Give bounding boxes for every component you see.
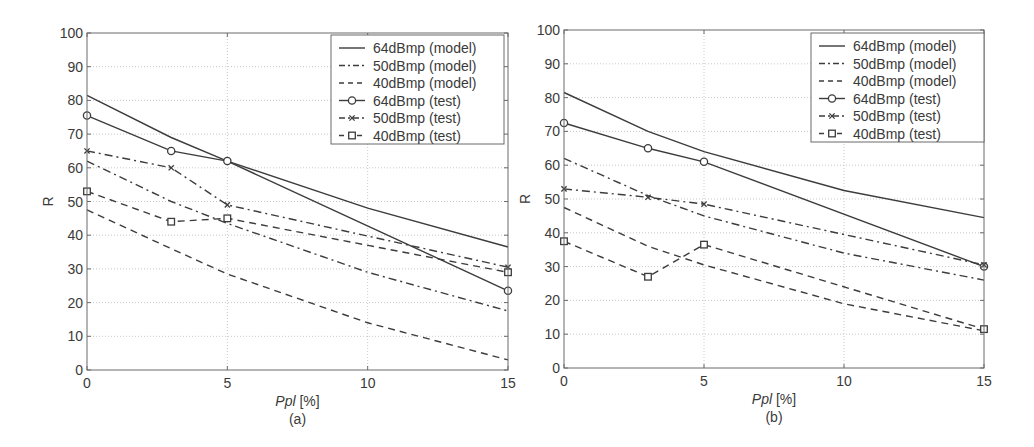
legend-label: 64dBmp (test) [853,91,941,107]
x-tick-label: 10 [360,375,376,391]
y-tick-label: 60 [67,160,83,176]
y-tick-label: 30 [67,261,83,277]
data-point-square-marker [224,215,231,222]
x-tick-label: 15 [976,373,992,389]
legend-square-marker [829,130,836,137]
legend-label: 64dBmp (model) [853,38,957,54]
y-tick-label: 100 [537,22,561,38]
y-axis-label: R [40,196,56,206]
legend-label: 64dBmp (test) [373,93,461,109]
data-point-circle-marker [224,157,231,164]
legend-label: 50dBmp (model) [373,58,477,74]
data-point-circle-marker [168,147,175,154]
legend: 64dBmp (model)50dBmp (model)40dBmp (mode… [811,33,984,142]
legend: 64dBmp (model)50dBmp (model)40dBmp (mode… [331,35,504,144]
data-point-square-marker [168,218,175,225]
x-axis-label: Ppl [%] [752,391,796,407]
legend-label: 40dBmp (test) [853,126,941,142]
data-point-square-marker [701,241,708,248]
y-tick-label: 90 [67,59,83,75]
legend-label: 40dBmp (test) [373,128,461,144]
y-tick-label: 20 [67,295,83,311]
x-tick-label: 15 [500,375,516,391]
y-tick-label: 70 [67,126,83,142]
legend-circle-marker [348,97,355,104]
y-axis-label: R [517,194,533,204]
x-axis-label: Ppl [%] [275,393,319,409]
legend-square-marker [349,132,356,139]
y-tick-label: 80 [67,92,83,108]
chart-panel-b: 0102030405060708090100051015RPpl [%](b)6… [517,22,992,425]
y-tick-label: 0 [75,362,83,378]
data-point-circle-marker [700,158,707,165]
y-tick-label: 10 [544,326,560,342]
y-tick-label: 70 [544,123,560,139]
panel-label: (b) [765,409,782,425]
y-tick-label: 0 [552,360,560,376]
x-tick-label: 10 [836,373,852,389]
x-tick-label: 0 [560,373,568,389]
y-tick-label: 20 [544,292,560,308]
legend-label: 40dBmp (model) [853,73,957,89]
chart-panel-a: 0102030405060708090100051015RPpl [%](a)6… [40,25,516,427]
legend-label: 50dBmp (test) [373,110,461,126]
y-tick-label: 60 [544,157,560,173]
legend-label: 50dBmp (test) [853,108,941,124]
data-point-square-marker [645,273,652,280]
y-tick-label: 80 [544,90,560,106]
x-tick-label: 5 [700,373,708,389]
figure: 0102030405060708090100051015RPpl [%](a)6… [0,0,1034,447]
legend-label: 64dBmp (model) [373,40,477,56]
legend-circle-marker [828,95,835,102]
y-tick-label: 40 [544,225,560,241]
y-tick-label: 10 [67,328,83,344]
y-tick-label: 50 [67,194,83,210]
y-tick-label: 90 [544,56,560,72]
legend-label: 50dBmp (model) [853,56,957,72]
panel-label: (a) [289,411,306,427]
y-tick-label: 30 [544,259,560,275]
legend-label: 40dBmp (model) [373,75,477,91]
x-tick-label: 0 [83,375,91,391]
x-tick-label: 5 [223,375,231,391]
y-tick-label: 40 [67,227,83,243]
y-tick-label: 50 [544,191,560,207]
y-tick-label: 100 [60,25,84,41]
data-point-circle-marker [644,145,651,152]
